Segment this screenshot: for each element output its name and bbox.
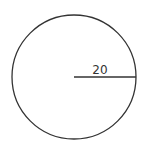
circle-diagram: 20 [0, 0, 143, 153]
radius-label: 20 [92, 63, 107, 77]
